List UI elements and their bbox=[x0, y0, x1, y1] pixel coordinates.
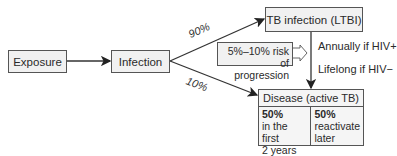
early-line2: 2 years bbox=[262, 144, 296, 156]
early-pct: 50% bbox=[262, 108, 283, 120]
disease-header: Disease (active TB) bbox=[259, 90, 363, 107]
late-pct: 50% bbox=[314, 108, 335, 120]
late-line2: later bbox=[314, 132, 334, 144]
ltbi-node: TB infection (LTBI) bbox=[265, 7, 363, 32]
disease-early-cell: 50% in the first 2 years bbox=[259, 107, 311, 146]
late-line1: reactivate bbox=[314, 120, 360, 132]
risk-box: 5%–10% risk of progression bbox=[217, 42, 293, 66]
infection-node: Infection bbox=[111, 50, 170, 73]
exposure-label: Exposure bbox=[13, 56, 62, 68]
ltbi-label: TB infection (LTBI) bbox=[266, 14, 361, 26]
hollow-arrow-icon bbox=[292, 45, 307, 61]
note-hiv-positive: Annually if HIV+ bbox=[318, 40, 397, 52]
risk-line1: 5%–10% risk of bbox=[221, 45, 289, 69]
early-line1: in the first bbox=[262, 120, 288, 144]
risk-line2: progression bbox=[221, 69, 289, 81]
exposure-node: Exposure bbox=[8, 50, 67, 73]
disease-node: Disease (active TB) 50% in the first 2 y… bbox=[258, 89, 364, 146]
infection-label: Infection bbox=[119, 56, 162, 68]
disease-late-cell: 50% reactivate later bbox=[311, 107, 363, 146]
note-hiv-negative: Lifelong if HIV− bbox=[318, 63, 393, 75]
